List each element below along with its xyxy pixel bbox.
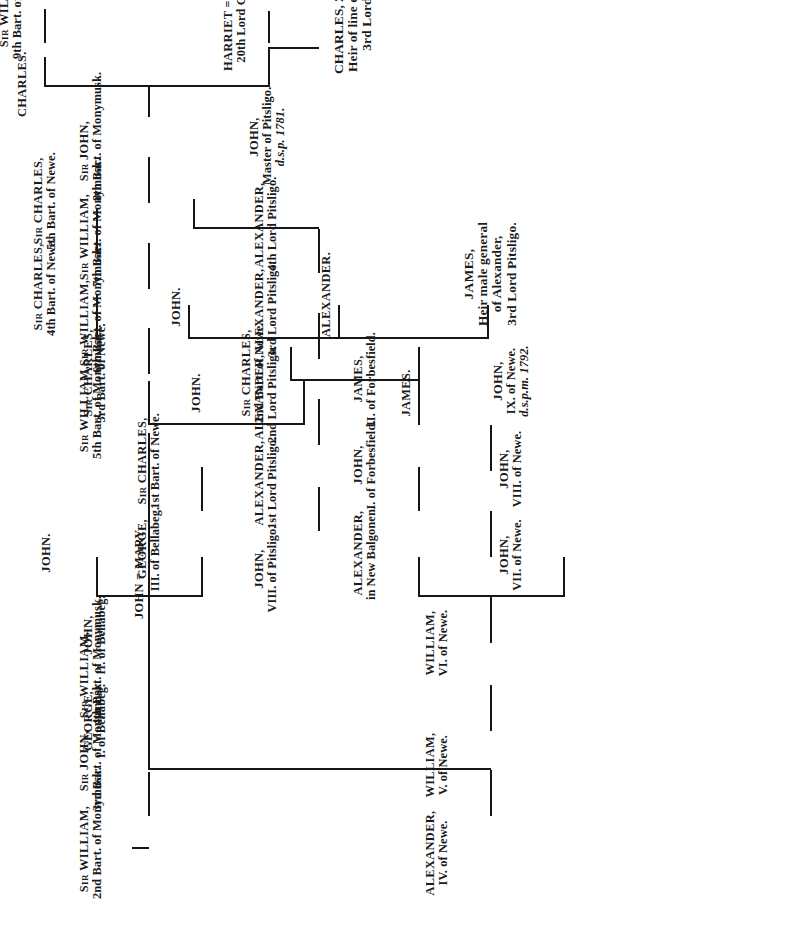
node-charles-21st-lord-clinton[interactable]: CHARLES, 21st Lord Clinton. Heir of line… bbox=[332, 0, 375, 74]
pedigree-chart: Sir WILLIAM, 2nd Bart. of Monymusk. Sir … bbox=[0, 0, 791, 929]
connector bbox=[290, 347, 292, 381]
node-line: 3rd Bart. of Newe. bbox=[95, 323, 108, 423]
node-pitsligo-1st-lord[interactable]: ALEXANDER, 1st Lord Pitsligo. bbox=[253, 437, 279, 529]
node-line: VIII. of Pitsligo. bbox=[266, 523, 279, 615]
node-line: I. of Bellabeg. bbox=[95, 675, 108, 767]
connector bbox=[418, 347, 420, 381]
node-line: ALEXANDER. bbox=[320, 257, 333, 337]
node-line: 9th Bart. of Monymusk. bbox=[11, 0, 24, 59]
node-monymusk-8th-bart[interactable]: Sir JOHN, 8th Bart. of Monymusk. bbox=[78, 101, 104, 201]
node-pitsligo-master-john[interactable]: JOHN, Master of Pitsligo. d.s.p. 1781. bbox=[248, 89, 287, 185]
node-bellabeg-george-i[interactable]: GEORGE, I. of Bellabeg. bbox=[82, 675, 108, 767]
connector bbox=[148, 328, 150, 374]
node-john-forbesfield-branch[interactable]: JOHN. bbox=[190, 363, 203, 423]
node-monymusk-9th-bart[interactable]: Sir WILLIAM, 9th Bart. of Monymusk. bbox=[0, 0, 24, 59]
connector bbox=[490, 511, 492, 557]
node-line: 1st Lord Pitsligo. bbox=[266, 437, 279, 529]
connector bbox=[268, 11, 270, 43]
node-line: JOHN. bbox=[40, 523, 53, 583]
node-line: II. of Bellabeg. bbox=[95, 589, 108, 681]
node-line: d.s.p. 1781. bbox=[274, 89, 287, 185]
node-bellabeg-john[interactable]: JOHN. bbox=[40, 523, 53, 583]
node-line: VII. of Newe. bbox=[511, 509, 524, 601]
node-newe-john-ix[interactable]: JOHN, IX. of Newe. d.s.p.m. 1792. bbox=[492, 333, 531, 429]
node-line: 4th Lord Pitsligo. bbox=[266, 179, 279, 271]
node-newe-john-viii[interactable]: JOHN, VIII. of Newe. bbox=[498, 423, 524, 515]
node-james-heir-male-general[interactable]: JAMES, Heir male general of Alexander, 3… bbox=[462, 209, 519, 339]
node-line: Heir of line of Alexander, bbox=[346, 0, 360, 74]
node-line: JOHN. bbox=[170, 277, 183, 337]
node-newe-2nd-bart[interactable]: Sir CHARLES, 2nd Bart. of Newe. bbox=[240, 323, 266, 423]
node-line: 5th Bart. of Newe. bbox=[45, 151, 58, 251]
node-harriet-charles-marriage[interactable]: HARRIET = CHARLES, 20th Lord Clinton. bbox=[222, 0, 248, 71]
node-newe-john-vii[interactable]: JOHN, VII. of Newe. bbox=[498, 509, 524, 601]
node-newe-william-v[interactable]: WILLIAM, V. of Newe. bbox=[424, 719, 450, 811]
node-line: 2nd Bart. of Newe. bbox=[253, 323, 266, 423]
connector bbox=[148, 643, 150, 685]
connector bbox=[148, 85, 270, 87]
connector bbox=[318, 399, 320, 445]
node-newe-1st-bart[interactable]: Sir CHARLES, 1st Bart. of Newe. bbox=[136, 411, 162, 511]
node-line: VI. of Newe. bbox=[437, 597, 450, 689]
node-forbesfield-james-ii[interactable]: JAMES, II. of Forbesfield. bbox=[352, 329, 378, 429]
node-line: CHARLES, 21st Lord Clinton. bbox=[332, 0, 346, 74]
node-line: JOHN. bbox=[190, 363, 203, 423]
node-line: JAMES, bbox=[462, 209, 476, 339]
node-line: Heir male general bbox=[476, 209, 490, 339]
node-line: 20th Lord Clinton. bbox=[235, 0, 248, 71]
node-line: I. of Forbesfield. bbox=[365, 415, 378, 515]
node-newe-3rd-bart[interactable]: Sir CHARLES, 3rd Bart. of Newe. bbox=[82, 323, 108, 423]
node-alexander-new-balgonen[interactable]: ALEXANDER, in New Balgonen. bbox=[352, 499, 378, 607]
node-line: d.s.p.m. 1792. bbox=[518, 333, 531, 429]
node-line: VIII. of Newe. bbox=[511, 423, 524, 515]
node-bellabeg-john-ii[interactable]: JOHN, II. of Bellabeg. bbox=[82, 589, 108, 681]
node-monymusk-7th-bart[interactable]: Sir WILLIAM, 7th Bart. of Monymusk. bbox=[78, 187, 104, 287]
connector bbox=[193, 199, 195, 229]
connector bbox=[148, 685, 150, 731]
connector bbox=[148, 87, 150, 117]
connector bbox=[418, 557, 420, 597]
node-john-descendant[interactable]: JOHN. bbox=[170, 277, 183, 337]
node-line: 2nd Lord Pitsligo. bbox=[266, 351, 279, 443]
connector bbox=[490, 770, 492, 816]
connector bbox=[418, 381, 420, 425]
connector bbox=[148, 243, 150, 289]
node-line: III. of Bellabeg. bbox=[149, 501, 162, 597]
connector bbox=[148, 597, 150, 643]
node-monymusk-2nd-bart[interactable]: Sir WILLIAM, 2nd Bart. of Monymusk. bbox=[78, 799, 104, 899]
node-line: 1st Bart. of Newe. bbox=[149, 411, 162, 511]
node-newe-william-vi[interactable]: WILLIAM, VI. of Newe. bbox=[424, 597, 450, 689]
node-pitsligo-4th-lord[interactable]: ALEXANDER, 4th Lord Pitsligo. bbox=[253, 179, 279, 271]
connector bbox=[490, 597, 492, 643]
node-line: 8th Bart. of Monymusk. bbox=[91, 101, 104, 201]
node-newe-4th-bart[interactable]: Sir CHARLES, 4th Bart. of Newe. bbox=[32, 237, 58, 337]
connector bbox=[44, 9, 46, 43]
node-line: V. of Newe. bbox=[437, 719, 450, 811]
node-alexander-descendant[interactable]: ALEXANDER. bbox=[320, 257, 333, 337]
node-charles-son[interactable]: CHARLES. bbox=[16, 57, 29, 117]
connector bbox=[563, 557, 565, 597]
connector bbox=[148, 157, 150, 203]
connector bbox=[268, 47, 318, 49]
node-bellabeg-george-iii[interactable]: GEORGE, III. of Bellabeg. bbox=[136, 501, 162, 597]
connector bbox=[268, 49, 270, 87]
node-line: 7th Bart. of Monymusk. bbox=[91, 187, 104, 287]
node-pitsligo-john-viii[interactable]: JOHN, VIII. of Pitsligo. bbox=[253, 523, 279, 615]
connector bbox=[148, 772, 150, 816]
connector bbox=[490, 425, 492, 471]
node-line: 2nd Bart. of Monymusk. bbox=[91, 799, 104, 899]
node-line: in New Balgonen. bbox=[365, 499, 378, 607]
node-line: 3rd Lord Pitsligo. bbox=[505, 209, 519, 339]
node-forbesfield-john-i[interactable]: JOHN, I. of Forbesfield. bbox=[352, 415, 378, 515]
node-line: IV. of Newe. bbox=[437, 807, 450, 899]
rotated-chart-canvas: Sir WILLIAM, 2nd Bart. of Monymusk. Sir … bbox=[0, 0, 791, 929]
connector bbox=[303, 381, 305, 425]
node-line: CHARLES. bbox=[16, 57, 29, 117]
connector bbox=[418, 467, 420, 511]
node-line: JAMES. bbox=[400, 363, 413, 423]
node-newe-alexander-iv[interactable]: ALEXANDER, IV. of Newe. bbox=[424, 807, 450, 899]
node-james-forbesfield-branch[interactable]: JAMES. bbox=[400, 363, 413, 423]
connector bbox=[148, 423, 304, 425]
node-newe-5th-bart[interactable]: Sir CHARLES, 5th Bart. of Newe. bbox=[32, 151, 58, 251]
node-line: 3rd Lord Pitsligo. bbox=[266, 265, 279, 357]
